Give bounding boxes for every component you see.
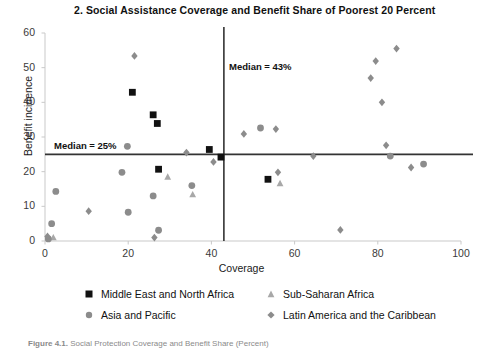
caption-rest: Social Protection Coverage and Benefit S… <box>70 339 268 348</box>
chart-legend: Middle East and North Africa Asia and Pa… <box>0 283 483 328</box>
legend-column-right: Sub-Saharan Africa Latin America and the… <box>265 283 436 325</box>
legend-label: Asia and Pacific <box>101 309 176 321</box>
median-x-annotation: Median = 43% <box>229 61 292 72</box>
figure-caption: Figure 4.1. Social Protection Coverage a… <box>28 339 269 348</box>
x-tick-label: 40 <box>196 247 226 259</box>
legend-label: Sub-Saharan Africa <box>283 288 374 300</box>
series-1 <box>50 173 284 240</box>
triangle-marker-icon <box>265 288 277 300</box>
y-tick-label: 30 <box>11 130 35 142</box>
x-axis-label: Coverage <box>0 262 483 274</box>
legend-column-left: Middle East and North Africa Asia and Pa… <box>83 283 234 325</box>
y-tick-label: 0 <box>11 234 35 246</box>
x-tick-label: 0 <box>30 247 60 259</box>
square-marker-icon <box>83 288 95 300</box>
y-tick-label: 50 <box>11 61 35 73</box>
legend-item-middle-east-and-north-africa[interactable]: Middle East and North Africa <box>83 283 234 304</box>
y-tick-label: 60 <box>11 26 35 38</box>
legend-item-sub-saharan-africa[interactable]: Sub-Saharan Africa <box>265 283 436 304</box>
diamond-marker-icon <box>265 309 277 321</box>
y-tick-label: 20 <box>11 165 35 177</box>
legend-label: Latin America and the Caribbean <box>283 309 436 321</box>
legend-item-latin-america-and-the-caribbean[interactable]: Latin America and the Caribbean <box>265 304 436 325</box>
x-tick-label: 20 <box>113 247 143 259</box>
x-tick-label: 80 <box>363 247 393 259</box>
series-0 <box>129 89 271 183</box>
caption-bold: Figure 4.1. <box>28 339 68 348</box>
legend-label: Middle East and North Africa <box>101 288 234 300</box>
legend-item-asia-and-pacific[interactable]: Asia and Pacific <box>83 304 234 325</box>
median-y-annotation: Median = 25% <box>54 140 117 151</box>
y-tick-label: 10 <box>11 199 35 211</box>
x-tick-label: 60 <box>280 247 310 259</box>
x-tick-label: 100 <box>446 247 476 259</box>
y-tick-label: 40 <box>11 95 35 107</box>
circle-marker-icon <box>83 309 95 321</box>
y-axis-label: Benefit incidence <box>22 61 34 171</box>
